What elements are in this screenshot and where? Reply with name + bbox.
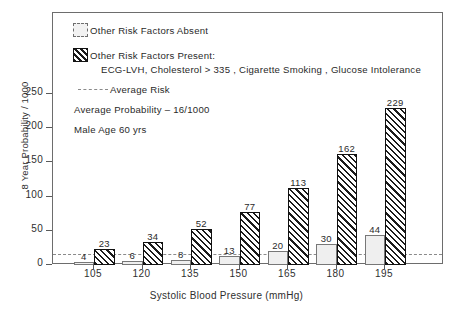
chart-figure: 8 Year Probability / 1000 05010015020025… xyxy=(0,0,453,315)
bar-value-label: 52 xyxy=(181,218,221,229)
y-axis-title: 8 Year Probability / 1000 xyxy=(19,36,30,236)
x-tick-label: 150 xyxy=(219,268,259,279)
bar-value-label: 23 xyxy=(84,238,124,249)
y-tick: 50 xyxy=(0,230,52,231)
y-tick: 100 xyxy=(0,196,52,197)
y-tick-label: 50 xyxy=(31,223,43,234)
x-tick-label: 195 xyxy=(364,268,404,279)
legend-label-present: Other Risk Factors Present: xyxy=(90,48,215,61)
bar-present xyxy=(337,154,358,265)
legend-note-average-probability: Average Probability – 16/1000 xyxy=(74,104,383,115)
bar-present xyxy=(385,108,406,265)
bar-value-label: 162 xyxy=(327,143,367,154)
legend-swatch-absent-icon xyxy=(73,23,88,37)
y-tick-mark xyxy=(46,264,52,265)
y-tick: 250 xyxy=(0,93,52,94)
y-tick-label: 200 xyxy=(25,120,43,131)
bar-present xyxy=(240,212,261,265)
legend-note-subject: Male Age 60 yrs xyxy=(74,124,383,135)
bar-value-label: 34 xyxy=(133,231,173,242)
bar-present xyxy=(288,188,309,265)
bar-absent xyxy=(122,261,143,265)
legend-label-average-risk: Average Risk xyxy=(110,84,170,95)
bar-absent xyxy=(171,260,192,265)
legend-present-detail: ECG-LVH, Cholesterol > 335 , Cigarette S… xyxy=(101,64,383,75)
chart-legend: Other Risk Factors Absent Other Risk Fac… xyxy=(73,23,383,135)
x-tick-label: 105 xyxy=(73,268,113,279)
bar-absent xyxy=(268,251,289,265)
x-tick-label: 120 xyxy=(122,268,162,279)
bar-value-label: 113 xyxy=(278,177,318,188)
plot-area: 4236348521377201133016244229 Other Risk … xyxy=(52,12,443,264)
y-tick: 0 xyxy=(0,264,52,265)
bar-absent xyxy=(316,244,337,265)
x-tick-label: 135 xyxy=(170,268,210,279)
bar-absent xyxy=(74,262,95,265)
legend-dash-average-risk-icon xyxy=(78,89,108,90)
bar-value-label: 77 xyxy=(230,201,270,212)
y-tick-label: 250 xyxy=(25,86,43,97)
legend-label-absent: Other Risk Factors Absent xyxy=(90,23,208,36)
y-tick: 200 xyxy=(0,127,52,128)
legend-item-average-risk: Average Risk xyxy=(78,84,383,95)
x-tick-label: 165 xyxy=(267,268,307,279)
y-tick-label: 100 xyxy=(25,189,43,200)
x-axis-title: Systolic Blood Pressure (mmHg) xyxy=(0,290,453,301)
bar-absent xyxy=(365,235,386,265)
y-tick-label: 150 xyxy=(25,154,43,165)
legend-item-present: Other Risk Factors Present: xyxy=(73,48,383,62)
legend-swatch-present-icon xyxy=(73,48,88,62)
y-tick-label: 0 xyxy=(37,257,43,268)
x-tick-label: 180 xyxy=(316,268,356,279)
y-tick: 150 xyxy=(0,161,52,162)
legend-item-absent: Other Risk Factors Absent xyxy=(73,23,383,37)
bar-absent xyxy=(219,256,240,265)
